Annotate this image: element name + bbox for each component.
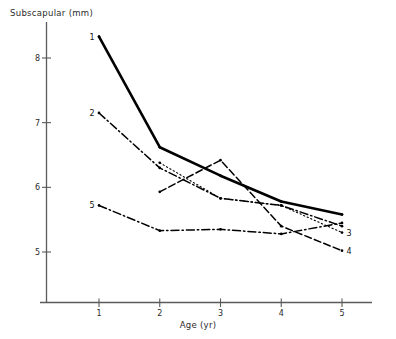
- data-point: [280, 225, 283, 228]
- data-point: [219, 197, 222, 200]
- chart-figure: Subscapular (mm) Age (yr) 567812345 1234…: [0, 0, 396, 339]
- y-tick-label: 8: [26, 54, 40, 63]
- data-point: [158, 161, 161, 164]
- data-point: [341, 213, 344, 216]
- x-tick-label: 4: [274, 309, 288, 318]
- series-label-3: 3: [347, 228, 352, 237]
- data-point: [219, 174, 222, 177]
- data-point: [98, 35, 101, 38]
- plot-area: [0, 0, 396, 339]
- series-label-2: 2: [90, 108, 95, 117]
- data-point: [98, 204, 101, 207]
- y-tick-label: 5: [26, 248, 40, 257]
- data-point: [280, 204, 283, 207]
- data-point: [158, 229, 161, 232]
- data-point: [341, 249, 344, 252]
- data-point: [219, 228, 222, 231]
- y-tick-label: 7: [26, 118, 40, 127]
- series-label-5: 5: [90, 201, 95, 210]
- series-line-2: [99, 113, 342, 226]
- y-tick-label: 6: [26, 183, 40, 192]
- data-point: [98, 112, 101, 115]
- data-point: [158, 146, 161, 149]
- x-tick-label: 3: [214, 309, 228, 318]
- series-line-4: [160, 160, 342, 251]
- data-series: [98, 35, 344, 252]
- tick-marks: [42, 58, 342, 307]
- data-point: [158, 167, 161, 170]
- data-point: [341, 222, 344, 225]
- series-label-4: 4: [347, 246, 352, 255]
- data-point: [280, 233, 283, 236]
- axes: [40, 22, 372, 303]
- series-line-1: [99, 37, 342, 215]
- series-line-3: [160, 163, 342, 233]
- x-tick-label: 5: [335, 309, 349, 318]
- data-point: [280, 200, 283, 203]
- data-point: [341, 225, 344, 228]
- data-point: [219, 159, 222, 162]
- series-label-1: 1: [90, 32, 95, 41]
- data-point: [341, 231, 344, 234]
- data-point: [158, 191, 161, 194]
- x-tick-label: 1: [92, 309, 106, 318]
- x-tick-label: 2: [153, 309, 167, 318]
